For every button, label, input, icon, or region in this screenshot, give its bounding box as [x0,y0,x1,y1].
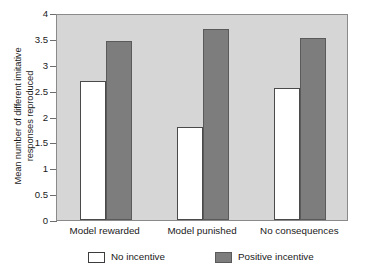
y-axis-tick-label: 2 [8,113,48,123]
y-axis-tick-label: 3 [8,61,48,71]
plot-area [56,14,348,221]
bar-positive-incentive [300,38,326,220]
y-axis-tick-label: 3.5 [8,35,48,45]
legend-item-positive-incentive: Positive incentive [215,251,314,263]
y-axis-tick-label: 0 [8,216,48,226]
legend-item-no-incentive: No incentive [88,251,165,263]
legend-label: No incentive [111,251,165,263]
legend-swatch-icon [215,252,232,263]
y-axis-tick-label: 2.5 [8,87,48,97]
bar-no-incentive [177,127,203,220]
bar-positive-incentive [106,41,132,220]
x-axis-label-2: No consequences [239,225,359,237]
y-axis-tick-mark [50,221,57,222]
bar-no-incentive [274,88,300,220]
bar-chart-figure: Mean number of different imitative respo… [0,0,367,274]
y-axis-tick-label: 0.5 [8,190,48,200]
y-axis-tick-label: 4 [8,9,48,19]
legend-swatch-icon [88,252,105,263]
bar-positive-incentive [203,29,229,220]
y-axis-tick-label: 1.5 [8,138,48,148]
bar-no-incentive [80,81,106,220]
legend-label: Positive incentive [238,251,314,263]
chart-legend: No incentivePositive incentive [0,251,367,269]
y-axis-tick-label: 1 [8,164,48,174]
